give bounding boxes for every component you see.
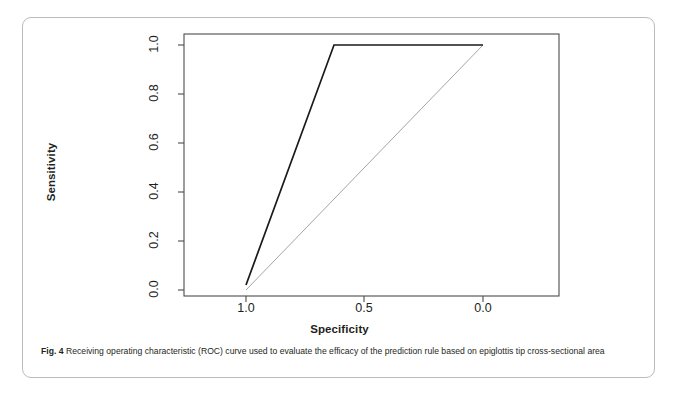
y-tick-label-3: 0.4 [147,171,161,211]
roc-curve-line [246,45,483,285]
y-tick-label-5: 0.8 [147,73,161,113]
y-tick-label-1: 0.0 [147,269,161,309]
chance-diagonal-line [246,45,483,290]
x-tick-label-1: 1.0 [226,301,266,315]
x-tick-label-2: 0.5 [344,301,384,315]
y-axis-ticks [178,45,184,290]
roc-chart-svg [23,18,656,336]
figure-card: 1.0 0.5 0.0 0.0 0.2 0.4 0.6 0.8 1.0 Spec… [22,17,655,378]
figure-caption: Fig. 4 Receiving operating characteristi… [41,345,641,358]
y-axis-title: Sensitivity [45,112,57,232]
y-tick-label-2: 0.2 [147,220,161,260]
y-tick-label-4: 0.6 [147,122,161,162]
x-tick-label-3: 0.0 [463,301,503,315]
figure-caption-label: Fig. 4 [41,346,64,356]
figure-caption-text: Receiving operating characteristic (ROC)… [66,346,605,356]
roc-plot-region: 1.0 0.5 0.0 0.0 0.2 0.4 0.6 0.8 1.0 Spec… [23,18,656,336]
y-tick-label-6: 1.0 [147,24,161,64]
plot-frame [184,34,559,296]
x-axis-title: Specificity [23,323,656,335]
